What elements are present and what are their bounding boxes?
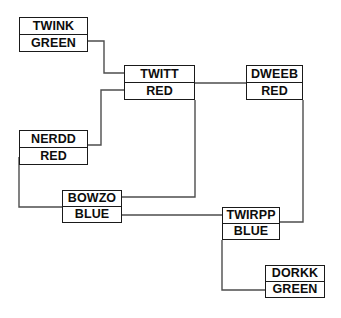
node-dorkk-color: GREEN bbox=[266, 282, 324, 297]
node-twitt-name: TWITT bbox=[125, 66, 194, 83]
node-nerdd-color: RED bbox=[20, 148, 87, 164]
node-twirpp[interactable]: TWIRPP BLUE bbox=[222, 207, 280, 240]
edge-twirpp-dorkk bbox=[222, 240, 265, 290]
edge-dweeb-twirpp bbox=[280, 100, 303, 222]
node-bowzo-color: BLUE bbox=[63, 207, 121, 222]
node-nerdd[interactable]: NERDD RED bbox=[19, 130, 88, 165]
node-dweeb-color: RED bbox=[247, 83, 302, 99]
node-bowzo[interactable]: BOWZO BLUE bbox=[62, 190, 122, 223]
node-twink-color: GREEN bbox=[20, 35, 87, 51]
node-twink-name: TWINK bbox=[20, 18, 87, 35]
node-nerdd-name: NERDD bbox=[20, 131, 87, 148]
node-twirpp-name: TWIRPP bbox=[223, 208, 279, 224]
diagram-canvas: TWINK GREEN TWITT RED DWEEB RED NERDD RE… bbox=[0, 0, 341, 318]
node-dweeb[interactable]: DWEEB RED bbox=[246, 65, 303, 100]
node-twirpp-color: BLUE bbox=[223, 224, 279, 239]
node-bowzo-name: BOWZO bbox=[63, 191, 121, 207]
edge-twitt-bowzo bbox=[122, 100, 195, 197]
node-twitt[interactable]: TWITT RED bbox=[124, 65, 195, 100]
node-dweeb-name: DWEEB bbox=[247, 66, 302, 83]
node-twitt-color: RED bbox=[125, 83, 194, 99]
node-dorkk-name: DORKK bbox=[266, 266, 324, 282]
edge-twink-twitt bbox=[88, 41, 124, 73]
node-twink[interactable]: TWINK GREEN bbox=[19, 17, 88, 52]
edge-nerdd-twitt bbox=[88, 90, 124, 145]
node-dorkk[interactable]: DORKK GREEN bbox=[265, 265, 325, 298]
